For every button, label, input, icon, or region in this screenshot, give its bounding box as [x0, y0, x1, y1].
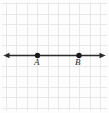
arrowhead-left — [4, 53, 10, 58]
line-ab — [4, 53, 106, 58]
arrowhead-right — [100, 53, 106, 58]
point-a-label: A — [34, 58, 40, 67]
point-b-label: B — [75, 58, 81, 67]
geometry-figure: A B — [0, 0, 109, 113]
line-and-points-layer — [0, 0, 109, 113]
